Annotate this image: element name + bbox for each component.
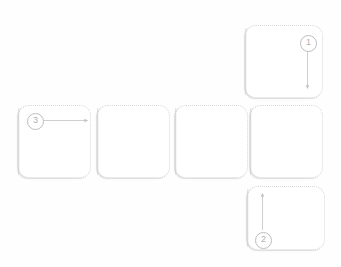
card-row-3[interactable] bbox=[175, 105, 248, 178]
diagram-canvas: 1 2 3 bbox=[0, 0, 341, 267]
card-row-4[interactable] bbox=[250, 105, 323, 178]
step-marker-2[interactable]: 2 bbox=[255, 232, 272, 249]
step-marker-3[interactable]: 3 bbox=[27, 113, 44, 130]
card-row-2[interactable] bbox=[97, 105, 170, 178]
step-marker-1[interactable]: 1 bbox=[300, 35, 317, 52]
